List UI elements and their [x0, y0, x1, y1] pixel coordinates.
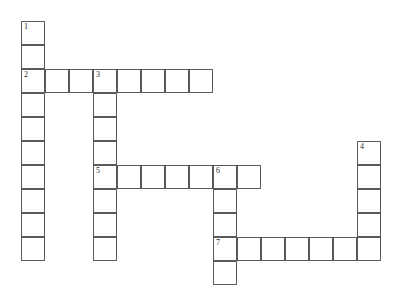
crossword-cell[interactable] — [45, 69, 69, 93]
crossword-cell[interactable] — [189, 165, 213, 189]
crossword-cell[interactable] — [21, 141, 45, 165]
crossword-cell-numbered-2[interactable]: 2 — [21, 69, 45, 93]
crossword-cell[interactable] — [117, 69, 141, 93]
crossword-cell[interactable] — [189, 69, 213, 93]
crossword-cell[interactable] — [117, 165, 141, 189]
cell-number-label: 4 — [360, 142, 364, 152]
crossword-cell[interactable] — [93, 93, 117, 117]
crossword-cell[interactable] — [213, 261, 237, 285]
crossword-cell[interactable] — [93, 213, 117, 237]
crossword-cell[interactable] — [165, 69, 189, 93]
crossword-cell[interactable] — [213, 189, 237, 213]
cell-number-label: 2 — [24, 70, 28, 80]
crossword-cell[interactable] — [93, 237, 117, 261]
crossword-cell[interactable] — [93, 189, 117, 213]
crossword-cell[interactable] — [93, 117, 117, 141]
cell-number-label: 6 — [216, 166, 220, 176]
crossword-cell[interactable] — [21, 237, 45, 261]
crossword-cell-numbered-5[interactable]: 5 — [93, 165, 117, 189]
crossword-cell[interactable] — [21, 165, 45, 189]
cell-number-label: 3 — [96, 70, 100, 80]
crossword-cell[interactable] — [165, 165, 189, 189]
crossword-cell[interactable] — [141, 165, 165, 189]
crossword-cell[interactable] — [93, 141, 117, 165]
crossword-cell[interactable] — [357, 213, 381, 237]
crossword-cell[interactable] — [237, 165, 261, 189]
crossword-cell[interactable] — [261, 237, 285, 261]
crossword-cell[interactable] — [213, 213, 237, 237]
crossword-cell[interactable] — [285, 237, 309, 261]
crossword-cell[interactable] — [357, 237, 381, 261]
crossword-cell-numbered-3[interactable]: 3 — [93, 69, 117, 93]
crossword-cell[interactable] — [237, 237, 261, 261]
crossword-cell[interactable] — [21, 117, 45, 141]
crossword-cell-numbered-7[interactable]: 7 — [213, 237, 237, 261]
crossword-cell[interactable] — [21, 213, 45, 237]
crossword-cell-numbered-4[interactable]: 4 — [357, 141, 381, 165]
crossword-puzzle: 1234567 — [0, 0, 404, 291]
crossword-cell[interactable] — [141, 69, 165, 93]
crossword-cell-numbered-6[interactable]: 6 — [213, 165, 237, 189]
crossword-cell[interactable] — [69, 69, 93, 93]
crossword-cell[interactable] — [357, 165, 381, 189]
crossword-cell[interactable] — [309, 237, 333, 261]
crossword-cell-numbered-1[interactable]: 1 — [21, 21, 45, 45]
cell-number-label: 5 — [96, 166, 100, 176]
cell-number-label: 7 — [216, 238, 220, 248]
crossword-cell[interactable] — [21, 189, 45, 213]
crossword-grid[interactable]: 1234567 — [0, 0, 404, 291]
crossword-cell[interactable] — [333, 237, 357, 261]
crossword-cell[interactable] — [357, 189, 381, 213]
cell-number-label: 1 — [24, 22, 28, 32]
crossword-cell[interactable] — [21, 93, 45, 117]
crossword-cell[interactable] — [21, 45, 45, 69]
